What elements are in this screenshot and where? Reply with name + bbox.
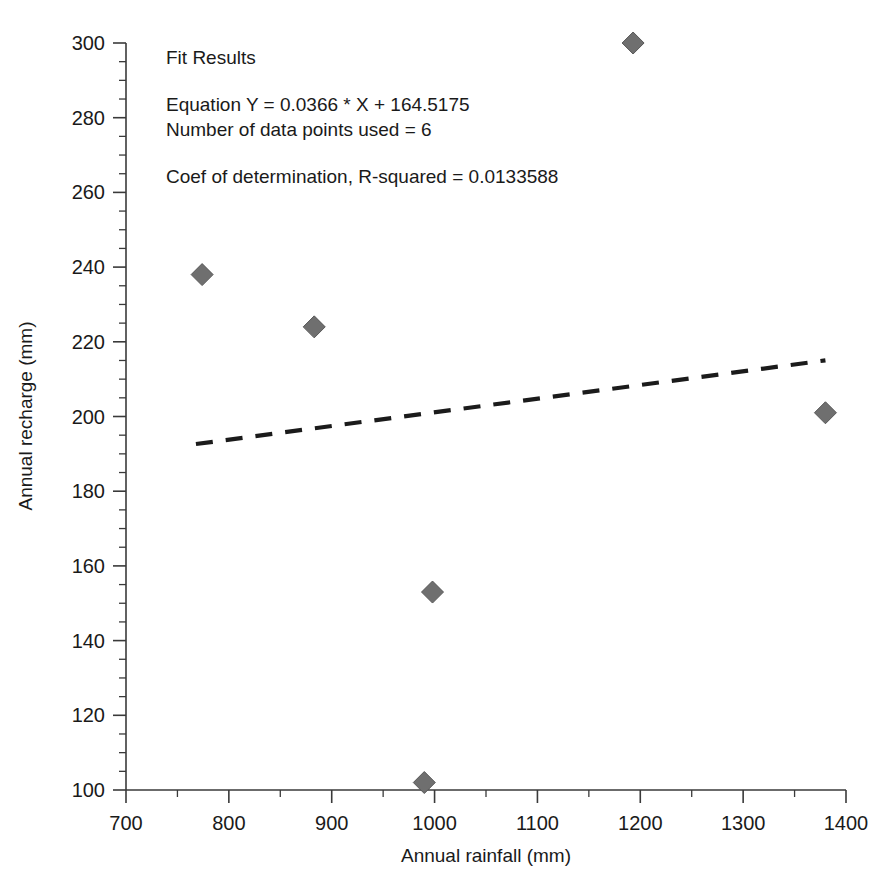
- y-tick-label: 300: [72, 32, 105, 54]
- regression-fit-line: [196, 360, 825, 444]
- x-tick-label: 1100: [516, 812, 559, 834]
- y-axis-ticks: [113, 43, 126, 790]
- x-axis-tick-labels: 70080090010001100120013001400: [109, 812, 868, 834]
- y-tick-label: 100: [72, 779, 105, 801]
- fit-equation-text: Equation Y = 0.0366 * X + 164.5175: [166, 94, 470, 115]
- fit-points-used-text: Number of data points used = 6: [166, 119, 432, 140]
- x-tick-label: 700: [109, 812, 142, 834]
- y-axis-tick-labels: 100120140160180200220240260280300: [72, 32, 105, 801]
- y-tick-label: 140: [72, 630, 105, 652]
- scatter-chart: 100120140160180200220240260280300 700800…: [0, 0, 895, 882]
- data-point-marker: [622, 32, 644, 54]
- y-tick-label: 200: [72, 406, 105, 428]
- y-tick-label: 260: [72, 181, 105, 203]
- x-tick-label: 1400: [824, 812, 869, 834]
- x-tick-label: 1200: [618, 812, 663, 834]
- y-tick-label: 220: [72, 331, 105, 353]
- x-tick-label: 1000: [412, 812, 457, 834]
- x-axis-title: Annual rainfall (mm): [401, 845, 571, 866]
- data-point-marker: [303, 316, 325, 338]
- y-axis-title: Annual recharge (mm): [15, 321, 36, 510]
- y-tick-label: 120: [72, 704, 105, 726]
- y-tick-label: 240: [72, 256, 105, 278]
- x-axis-ticks: [126, 790, 846, 803]
- fit-r-squared-text: Coef of determination, R-squared = 0.013…: [166, 166, 558, 187]
- data-point-marker: [422, 581, 444, 603]
- x-tick-label: 800: [212, 812, 245, 834]
- fit-results-heading: Fit Results: [166, 47, 256, 68]
- x-tick-label: 1300: [721, 812, 766, 834]
- y-tick-label: 180: [72, 480, 105, 502]
- data-point-marker: [191, 264, 213, 286]
- x-tick-label: 900: [315, 812, 348, 834]
- y-tick-label: 160: [72, 555, 105, 577]
- chart-canvas: 100120140160180200220240260280300 700800…: [0, 0, 895, 882]
- data-point-marker: [814, 402, 836, 424]
- y-tick-label: 280: [72, 107, 105, 129]
- data-point-markers: [191, 32, 836, 794]
